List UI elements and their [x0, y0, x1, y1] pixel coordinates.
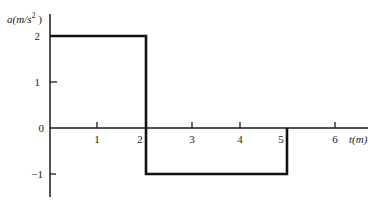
y-axis-label: a(m/s2 ) — [7, 11, 42, 26]
x-tick-label-3: 3 — [189, 133, 195, 145]
y-tick-label-0: 0 — [39, 122, 45, 134]
y-tick-label-1: 1 — [35, 76, 41, 88]
x-tick-label-1: 1 — [94, 133, 100, 145]
acceleration-time-chart: 2 1 0 −1 1 2 3 4 5 6 a(m/s2 ) t(m) — [0, 0, 378, 204]
x-axis-label: t(m) — [349, 133, 368, 146]
x-tick-label-4: 4 — [237, 133, 243, 145]
x-tick-label-5: 5 — [278, 133, 284, 145]
y-tick-label-2: 2 — [35, 30, 41, 42]
x-tick-label-2: 2 — [137, 133, 143, 145]
y-tick-label-neg1: −1 — [31, 168, 43, 180]
x-ticks — [97, 122, 335, 128]
x-tick-label-6: 6 — [332, 133, 338, 145]
acceleration-series-line — [50, 36, 287, 174]
